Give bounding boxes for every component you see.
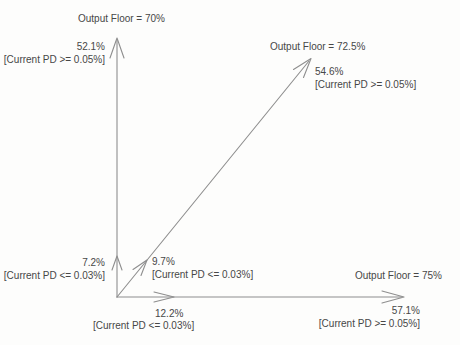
horizontal-mid-condition: [Current PD <= 0.03%] [93, 320, 194, 333]
vertical-end-label: 52.1% [Current PD >= 0.05%] [4, 41, 105, 66]
diagonal-mid-value: 9.7% [152, 256, 253, 269]
diagonal-floor-label: Output Floor = 72.5% [270, 41, 365, 54]
vertical-end-condition: [Current PD >= 0.05%] [4, 54, 105, 67]
diagonal-mid-condition: [Current PD <= 0.03%] [152, 269, 253, 282]
horizontal-mid-value: 12.2% [155, 308, 183, 321]
horizontal-end-label: 57.1% [Current PD >= 0.05%] [319, 305, 420, 330]
diagonal-end-condition: [Current PD >= 0.05%] [315, 79, 416, 92]
vertical-end-value: 52.1% [4, 41, 105, 54]
diagonal-mid-label: 9.7% [Current PD <= 0.03%] [152, 256, 253, 281]
horizontal-floor-label: Output Floor = 75% [355, 270, 442, 283]
diagonal-end-value: 54.6% [315, 66, 416, 79]
horizontal-axis-arrow [117, 291, 404, 303]
pd-output-floor-diagram: Output Floor = 70% 52.1% [Current PD >= … [0, 0, 460, 345]
vertical-axis-arrow [110, 38, 124, 297]
vertical-mid-condition: [Current PD <= 0.03%] [4, 270, 105, 283]
vertical-mid-label: 7.2% [Current PD <= 0.03%] [4, 257, 105, 282]
horizontal-end-condition: [Current PD >= 0.05%] [319, 318, 420, 331]
vertical-mid-value: 7.2% [4, 257, 105, 270]
diagonal-end-label: 54.6% [Current PD >= 0.05%] [315, 66, 416, 91]
horizontal-end-value: 57.1% [319, 305, 420, 318]
vertical-floor-label: Output Floor = 70% [78, 13, 165, 26]
